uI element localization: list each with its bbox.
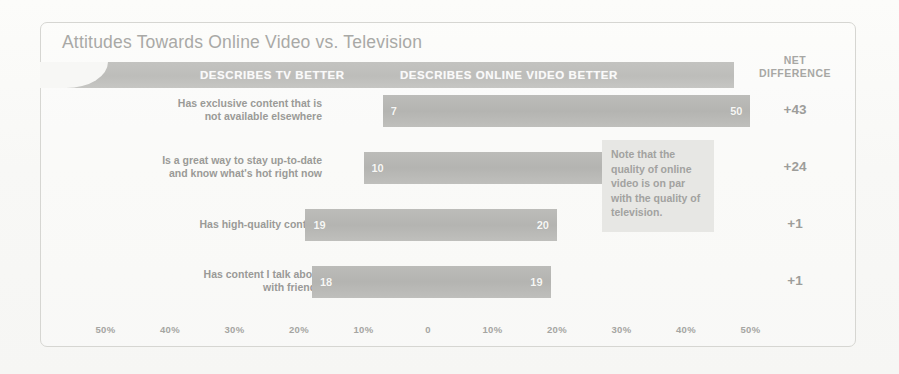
- chart-row: Has content I talk aboutwith friends1819…: [40, 265, 856, 311]
- axis-tick-1: 40%: [160, 324, 180, 335]
- bar-value-tv: 19: [313, 209, 325, 241]
- axis-tick-9: 40%: [676, 324, 696, 335]
- x-axis-ticks: 50%40%30%20%10%010%20%30%40%50%: [40, 324, 856, 346]
- chart-row: Has exclusive content that isnot availab…: [40, 94, 856, 140]
- legend-label-online-video-better: DESCRIBES ONLINE VIDEO BETTER: [400, 62, 618, 88]
- chart-plot-area: Has exclusive content that isnot availab…: [40, 94, 856, 324]
- infographic-card: Attitudes Towards Online Video vs. Telev…: [40, 22, 856, 347]
- net-difference-value: +24: [740, 159, 850, 174]
- annotation-note: Note that the quality of online video is…: [602, 140, 714, 232]
- axis-tick-6: 10%: [483, 324, 503, 335]
- legend-band: [54, 62, 734, 88]
- axis-tick-4: 10%: [354, 324, 374, 335]
- axis-tick-7: 20%: [547, 324, 567, 335]
- row-category-label-line-1: Is a great way to stay up-to-date: [90, 154, 322, 167]
- axis-tick-5: 0: [425, 324, 431, 335]
- axis-tick-2: 30%: [225, 324, 245, 335]
- net-difference-column-header: NETDIFFERENCE: [740, 54, 850, 80]
- row-category-label-line-1: Has exclusive content that is: [90, 97, 322, 110]
- row-category-label-line-1: Has content I talk about: [90, 268, 322, 281]
- net-difference-header-line-1: NET: [740, 54, 850, 67]
- row-category-label: Has content I talk aboutwith friends: [90, 268, 322, 294]
- axis-tick-0: 50%: [96, 324, 116, 335]
- row-category-label-line-1: Has high-quality content: [90, 218, 322, 231]
- bar-value-online-video: 19: [530, 266, 542, 298]
- axis-tick-10: 50%: [741, 324, 761, 335]
- bar-value-tv: 18: [320, 266, 332, 298]
- chart-row: Is a great way to stay up-to-dateand kno…: [40, 151, 856, 197]
- axis-tick-8: 30%: [612, 324, 632, 335]
- diverging-bar: 1920: [305, 209, 557, 241]
- diverging-bar: 750: [383, 95, 751, 127]
- row-category-label-line-2: with friends: [90, 281, 322, 294]
- net-difference-value: +1: [740, 216, 850, 231]
- net-difference-value: +43: [740, 102, 850, 117]
- row-category-label: Is a great way to stay up-to-dateand kno…: [90, 154, 322, 180]
- row-category-label-line-2: and know what's hot right now: [90, 167, 322, 180]
- row-category-label: Has exclusive content that isnot availab…: [90, 97, 322, 123]
- diverging-bar: 1819: [312, 266, 551, 298]
- net-difference-header-line-2: DIFFERENCE: [740, 67, 850, 80]
- bar-value-online-video: 20: [537, 209, 549, 241]
- row-category-label-line-2: not available elsewhere: [90, 110, 322, 123]
- chart-row: Has high-quality content1920+1: [40, 208, 856, 254]
- net-difference-value: +1: [740, 273, 850, 288]
- page-title: Attitudes Towards Online Video vs. Telev…: [62, 32, 422, 53]
- bar-value-tv: 7: [391, 95, 397, 127]
- row-category-label: Has high-quality content: [90, 218, 322, 231]
- legend-label-tv-better: DESCRIBES TV BETTER: [200, 62, 345, 88]
- axis-tick-3: 20%: [289, 324, 309, 335]
- bar-value-tv: 10: [372, 152, 384, 184]
